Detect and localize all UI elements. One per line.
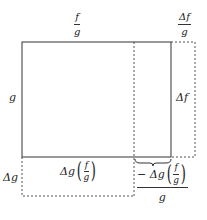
numerator: Δf [178,12,191,24]
inner-fraction: f g [84,161,90,182]
denominator: g [84,173,90,182]
label-delta-f-over-g: Δf g [178,12,191,37]
prefix: Δg [60,165,75,178]
denominator: g [181,25,187,37]
denominator: g [74,25,80,37]
left-paren: ( [166,163,171,185]
label-bottom-right: − Δg ( f g ) g [137,163,188,204]
outer-denominator: g [159,188,166,204]
right-paren: ) [181,163,186,185]
label-delta-g: Δg [3,172,18,183]
label-height-g: g [9,92,16,103]
numerator-expr: − Δg ( f g ) [137,163,188,185]
denominator: g [173,176,179,185]
main-rectangle [22,42,171,157]
label-bottom-area: Δg ( f g ) [60,160,98,182]
numerator: f [175,163,178,172]
label-width-f-over-g: f g [74,12,80,37]
numerator: f [85,161,88,170]
right-paren: ) [91,160,96,182]
numerator: f [74,12,80,24]
prefix: − Δg [137,168,165,181]
label-delta-f: Δf [176,92,188,103]
inner-fraction: f g [173,163,179,185]
left-paren: ( [77,160,82,182]
